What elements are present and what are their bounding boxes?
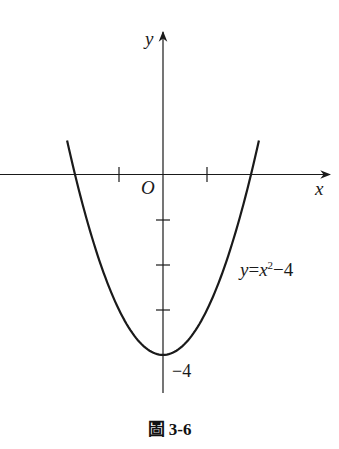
eq-rest: −4 <box>273 259 293 280</box>
y-axis-label: y <box>145 28 153 50</box>
eq-x: x <box>259 259 267 280</box>
curve-equation-label: y=x2−4 <box>240 259 293 281</box>
eq-equals: = <box>248 259 259 280</box>
x-axis-label: x <box>315 178 323 200</box>
origin-label: O <box>141 177 155 199</box>
figure-caption: 圖 3-6 <box>0 415 339 440</box>
chart-canvas <box>0 0 339 449</box>
y-value-label-minus-four: −4 <box>172 361 191 382</box>
